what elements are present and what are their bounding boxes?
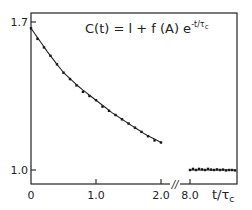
x-tick-0: 0	[28, 189, 35, 202]
fit-curve	[31, 28, 161, 142]
x-axis-label: t/τc	[212, 187, 234, 204]
x-tick-2.0: 2.0	[152, 189, 170, 202]
data-series	[30, 27, 236, 171]
y-tick-1.7: 1.7	[11, 16, 29, 29]
equation-subscript: c	[205, 23, 209, 31]
y-axis: 1.7 1.0	[11, 16, 37, 177]
x-tick-1.0: 1.0	[87, 189, 105, 202]
decay-chart: 1.7 1.0 // 0 1.0 2.0 8.0 t/τc C(t) = l +…	[0, 0, 252, 210]
equation-superscript: -t/τ	[191, 20, 205, 29]
x-axis-label-main: t/τ	[212, 187, 229, 202]
y-tick-1.0: 1.0	[11, 164, 29, 177]
equation-annotation: C(t) = l + f (A) e-t/τc	[85, 20, 209, 36]
x-axis-label-sub: c	[229, 194, 234, 204]
x-axis: // 0 1.0 2.0 8.0 t/τc	[28, 179, 235, 204]
equation-main: C(t) = l + f (A) e	[85, 21, 191, 36]
x-tick-8.0: 8.0	[181, 189, 199, 202]
plot-frame	[31, 13, 237, 184]
